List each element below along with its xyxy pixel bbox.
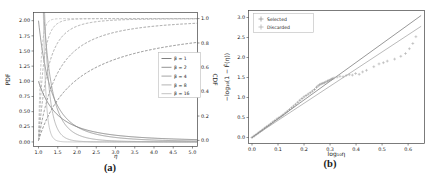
plus-marker bbox=[399, 55, 402, 58]
legend-b: SelectedDiscarded bbox=[254, 14, 314, 33]
plus-marker bbox=[311, 90, 314, 93]
y-tick-label-left: 1.25 bbox=[19, 63, 30, 69]
x-axis-label-a: η bbox=[114, 152, 118, 160]
plus-marker bbox=[307, 93, 310, 96]
y-tick-label-right: 0.2 bbox=[201, 113, 209, 119]
legend-label: β = 1 bbox=[174, 56, 187, 61]
plus-marker bbox=[290, 106, 293, 109]
y-tick-label: 0.0 bbox=[237, 134, 245, 140]
plus-marker bbox=[365, 69, 368, 72]
legend-label: β = 4 bbox=[174, 74, 187, 79]
y-tick-label-left: 0.50 bbox=[19, 108, 30, 114]
x-tick-label: 4.5 bbox=[169, 149, 177, 155]
y-tick-label-right: 1.0 bbox=[201, 15, 209, 21]
plus-marker bbox=[288, 108, 291, 111]
x-tick-label: 1.5 bbox=[54, 149, 62, 155]
plus-marker bbox=[404, 52, 407, 55]
y-tick-label: 3.0 bbox=[237, 14, 245, 20]
y-axis-label-right: CDF bbox=[212, 73, 219, 86]
plus-marker bbox=[358, 73, 361, 76]
y-tick-label: 2.0 bbox=[237, 54, 245, 60]
x-tick-label: 0.6 bbox=[404, 146, 412, 152]
plus-marker bbox=[351, 74, 354, 77]
legend-label: Discarded bbox=[267, 25, 290, 30]
legend-a: β = 1β = 2β = 4β = 8β = 16 bbox=[159, 53, 201, 98]
plus-marker bbox=[411, 42, 414, 45]
legend-label: Selected bbox=[267, 17, 287, 22]
legend-label: β = 16 bbox=[174, 91, 190, 96]
y-tick-label-left: 1.50 bbox=[19, 48, 30, 54]
figure: 1.01.52.02.53.03.54.04.55.00.000.250.500… bbox=[0, 0, 440, 189]
x-tick-label: 2.0 bbox=[73, 149, 81, 155]
x-tick-label: 4.0 bbox=[150, 149, 158, 155]
plus-marker bbox=[321, 82, 324, 85]
y-tick-label: 2.5 bbox=[237, 34, 245, 40]
y-tick-label-left: 1.75 bbox=[19, 33, 30, 39]
x-tick-label: 0.2 bbox=[300, 146, 308, 152]
x-tick-label: 5.0 bbox=[189, 149, 197, 155]
x-tick-label: 0.4 bbox=[352, 146, 360, 152]
x-axis-label-b: log₁₀η bbox=[328, 150, 346, 158]
plus-marker bbox=[305, 94, 308, 97]
x-tick-label: 0.1 bbox=[274, 146, 282, 152]
legend-label: β = 8 bbox=[174, 83, 187, 88]
x-tick-label: 0.0 bbox=[248, 146, 256, 152]
legend-label: β = 2 bbox=[174, 65, 187, 70]
plus-marker bbox=[378, 63, 381, 66]
plus-marker bbox=[361, 71, 364, 74]
plus-marker bbox=[301, 97, 304, 100]
plus-marker bbox=[382, 61, 385, 64]
plus-marker bbox=[354, 72, 357, 75]
x-tick-label: 0.5 bbox=[378, 146, 386, 152]
y-tick-label: 1.5 bbox=[237, 74, 245, 80]
y-tick-label-left: 1.00 bbox=[19, 78, 30, 84]
plus-marker bbox=[303, 96, 306, 99]
x-tick-label: 1.0 bbox=[35, 149, 43, 155]
y-tick-label-left: 0.25 bbox=[19, 123, 30, 129]
y-tick-label: 1.0 bbox=[237, 94, 245, 100]
plot-area-b bbox=[251, 16, 422, 139]
y-tick-label-right: 0.0 bbox=[201, 137, 209, 143]
plus-marker bbox=[299, 99, 302, 102]
caption-b: (b) bbox=[220, 158, 440, 169]
plus-marker bbox=[339, 75, 342, 78]
plus-marker bbox=[313, 88, 316, 91]
plus-marker bbox=[415, 35, 418, 38]
y-axis-label-left: PDF bbox=[4, 73, 11, 85]
plus-marker bbox=[372, 65, 375, 68]
y-tick-label: 0.5 bbox=[237, 114, 245, 120]
plus-marker bbox=[342, 75, 345, 78]
x-tick-label: 2.5 bbox=[92, 149, 100, 155]
pdf-cdf-chart: 1.01.52.02.53.03.54.04.55.00.000.250.500… bbox=[0, 0, 220, 189]
plus-marker bbox=[386, 60, 389, 63]
caption-a: (a) bbox=[0, 162, 220, 173]
reference-line-shallow bbox=[252, 26, 421, 137]
y-tick-label-left: 0.75 bbox=[19, 93, 30, 99]
y-tick-label-right: 0.4 bbox=[201, 88, 209, 94]
y-tick-label-left: 2.00 bbox=[19, 17, 30, 23]
y-tick-label-right: 0.6 bbox=[201, 64, 209, 70]
y-tick-label-left: 0.00 bbox=[19, 139, 30, 145]
x-tick-label: 3.5 bbox=[131, 149, 139, 155]
plus-marker bbox=[315, 86, 318, 89]
y-tick-label-right: 0.8 bbox=[201, 40, 209, 46]
plus-marker bbox=[336, 76, 339, 79]
y-axis-label-b: −log₁₀(1 − F̂(η)) bbox=[223, 53, 231, 101]
plus-marker bbox=[309, 91, 312, 94]
plus-marker bbox=[408, 47, 411, 50]
plus-marker bbox=[393, 58, 396, 61]
